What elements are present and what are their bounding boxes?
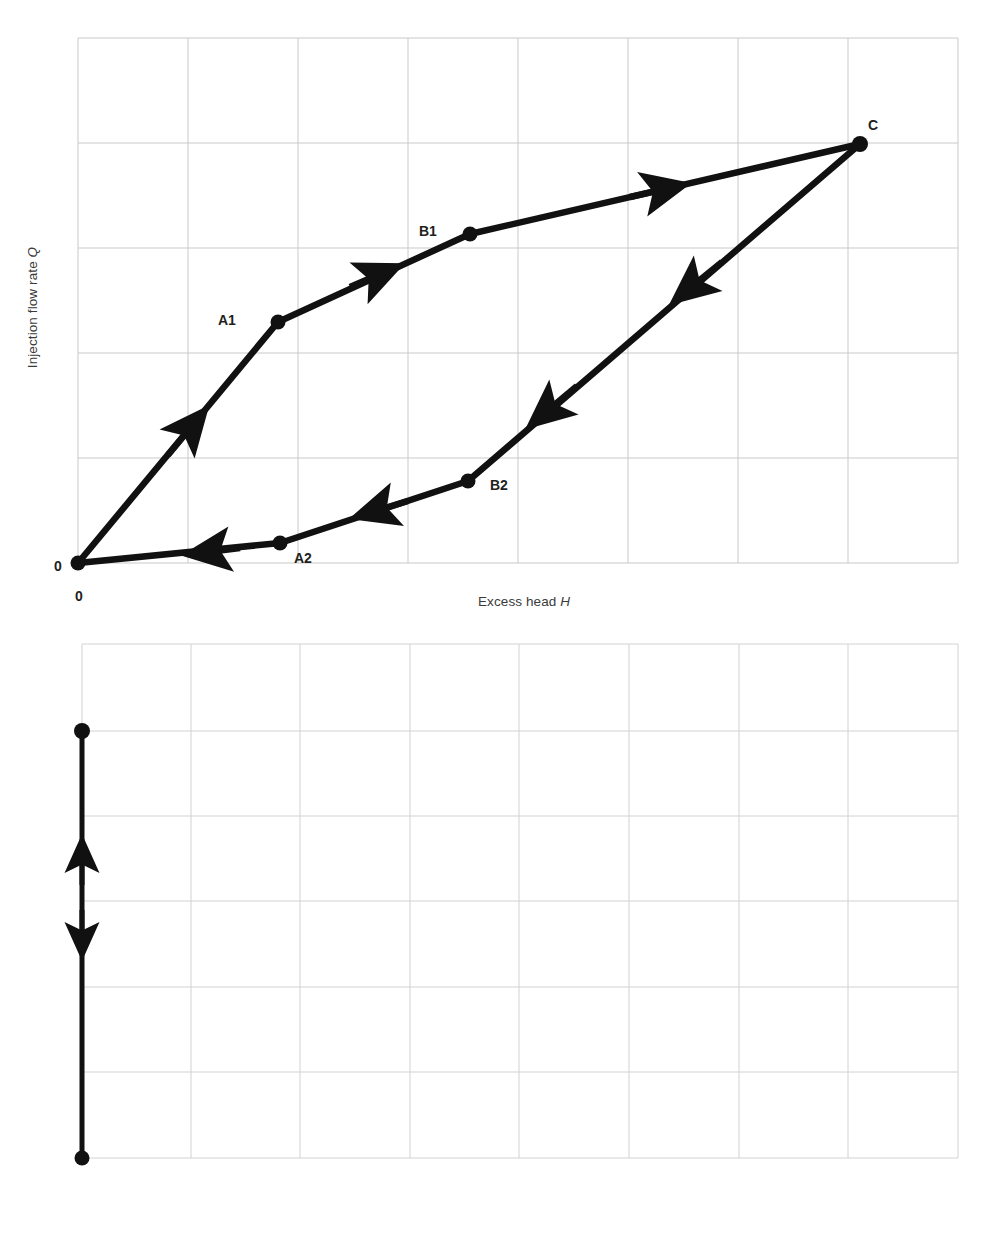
data-point-A1 <box>271 315 286 330</box>
data-point-origin <box>71 556 86 571</box>
hysteresis-plot-svg <box>0 0 995 620</box>
data-point-B2 <box>461 474 476 489</box>
point-label-c: C <box>868 117 878 133</box>
data-point-A2 <box>273 536 288 551</box>
data-point-C <box>852 136 868 152</box>
chart-panel-hysteresis: A1 B1 C A2 B2 0 0 Injection flow rate Q … <box>0 0 995 620</box>
x-axis-title: Excess head H <box>478 594 570 609</box>
point-label-b1: B1 <box>419 223 437 239</box>
y-axis-title-symbol: Q <box>25 247 40 258</box>
x-axis-zero-tick: 0 <box>75 588 83 604</box>
x-axis-title-symbol: H <box>560 594 570 609</box>
data-point-c <box>74 723 90 739</box>
zero-head-plot-svg <box>0 620 995 1256</box>
chart-panel-zero-head: C Maximum recorded flow rate is approxim… <box>0 620 995 1256</box>
two-panel-figure: A1 B1 C A2 B2 0 0 Injection flow rate Q … <box>0 0 995 1256</box>
data-point-origin <box>75 1151 90 1166</box>
point-label-a1: A1 <box>218 312 236 328</box>
unloading-path-arrows <box>208 262 722 552</box>
y-axis-zero-tick: 0 <box>54 558 62 574</box>
x-axis-title-text: Excess head <box>478 594 560 609</box>
loading-path-arrows <box>168 189 665 455</box>
grid-vertical-lines <box>78 38 958 563</box>
point-label-b2: B2 <box>490 477 508 493</box>
point-label-a2: A2 <box>294 550 312 566</box>
y-axis-title-text: Injection flow rate <box>25 257 40 368</box>
grid-horizontal-lines <box>82 644 958 1158</box>
data-point-B1 <box>463 227 478 242</box>
y-axis-title: Injection flow rate Q <box>25 218 40 398</box>
